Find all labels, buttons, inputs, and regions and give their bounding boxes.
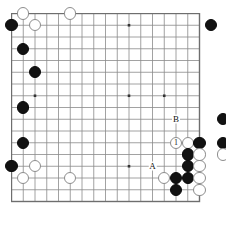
black-stone[interactable]: [17, 101, 29, 113]
white-stone[interactable]: [193, 148, 205, 160]
black-stone[interactable]: [5, 19, 17, 31]
white-stone[interactable]: [193, 172, 205, 184]
black-stone[interactable]: [217, 113, 226, 125]
black-stone[interactable]: [205, 19, 217, 31]
black-stone[interactable]: [182, 148, 194, 160]
go-board[interactable]: 1BA: [11, 13, 214, 218]
white-stone[interactable]: [64, 7, 76, 19]
white-stone[interactable]: [17, 7, 29, 19]
white-stone[interactable]: [217, 148, 226, 160]
black-stone[interactable]: [182, 172, 194, 184]
white-stone[interactable]: 1: [170, 137, 182, 149]
board-point-label-b: B: [172, 115, 180, 124]
black-stone[interactable]: [193, 137, 205, 149]
board-point-label-a: A: [148, 162, 157, 171]
black-stone[interactable]: [217, 137, 226, 149]
white-stone[interactable]: [182, 137, 194, 149]
black-stone[interactable]: [170, 184, 182, 196]
go-board-grid: [11, 13, 214, 218]
black-stone[interactable]: [5, 160, 17, 172]
white-stone[interactable]: [193, 184, 205, 196]
stone-move-number: 1: [171, 138, 181, 148]
go-diagram-root: 1BA: [0, 0, 226, 236]
white-stone[interactable]: [193, 160, 205, 172]
